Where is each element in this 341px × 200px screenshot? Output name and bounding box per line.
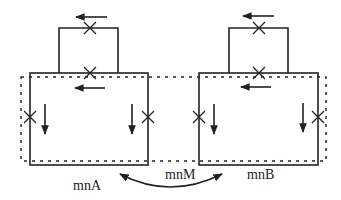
label-mnB: mnB [247,167,274,183]
dotted-boundary [21,77,326,161]
label-mnA: mnA [73,178,101,194]
right-loop [193,16,324,165]
left-loop [24,17,154,165]
label-mnM: mnM [165,167,195,183]
